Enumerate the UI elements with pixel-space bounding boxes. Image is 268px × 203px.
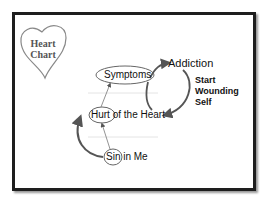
heart-chart-title: Heart Chart <box>28 38 58 60</box>
cycle-label: Start Wounding Self <box>195 75 239 108</box>
node-sin-in-me: Sin in Me <box>106 151 148 162</box>
node-addiction: Addiction <box>168 57 213 69</box>
node-hurt-of-the-heart: Hurt of the Heart <box>91 109 165 120</box>
node-symptoms: Symptoms <box>104 69 151 80</box>
